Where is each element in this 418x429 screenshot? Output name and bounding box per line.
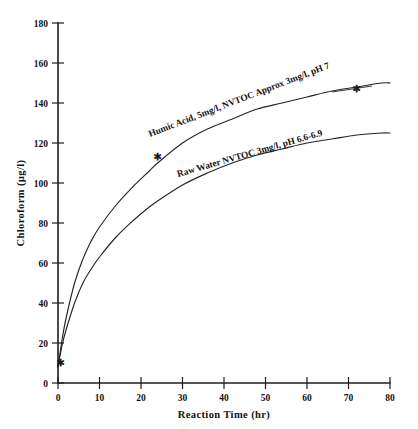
x-tick-label-30: 30 [178,393,188,403]
x-tick-label-0: 0 [56,393,61,403]
x-axis-title: Reaction Time (hr) [178,409,271,421]
x-tick-label-20: 20 [136,393,146,403]
y-tick-label-40: 40 [39,299,49,309]
data-point-marker-s0-0: ∗ [153,150,162,162]
y-tick-label-0: 0 [43,379,48,389]
x-tick-label-50: 50 [261,393,271,403]
y-axis-title: Chloroform (µg/l) [15,159,27,246]
y-tick-label-20: 20 [39,339,49,349]
x-tick-label-40: 40 [219,393,229,403]
y-tick-label-80: 80 [39,219,49,229]
y-tick-label-180: 180 [34,19,49,29]
y-tick-label-120: 120 [34,139,49,149]
chart-plot-area: 180 160 140 120 100 80 60 40 20 0 0 10 2… [0,0,418,429]
x-tick-label-80: 80 [385,393,395,403]
x-tick-label-10: 10 [95,393,105,403]
series-label-humic-acid: Humic Acid, 5mg/l, NVTOC Approx 3mg/l, p… [147,60,331,139]
series-label-raw-water: Raw Water NVTOC 3mg/l, pH 6.6-6.9 [176,128,324,179]
y-tick-label-60: 60 [39,259,49,269]
x-tick-label-70: 70 [344,393,354,403]
y-tick-label-140: 140 [34,99,49,109]
x-tick-label-60: 60 [302,393,312,403]
chart-figure: 180 160 140 120 100 80 60 40 20 0 0 10 2… [0,0,418,429]
y-tick-label-100: 100 [34,179,49,189]
series-line-raw-water [58,133,390,367]
y-tick-label-160: 160 [34,59,49,69]
series-line-humic-acid [58,83,390,367]
data-point-marker-origin: ∗ [56,356,65,368]
